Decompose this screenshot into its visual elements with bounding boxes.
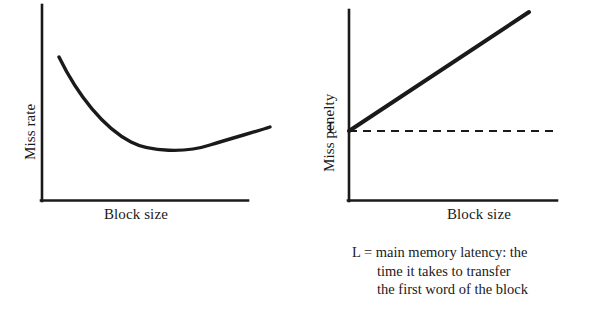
caption-line-2: time it takes to transfer [352,262,616,281]
figure-caption: L = main memory latency: the time it tak… [352,243,616,299]
latency-marker-label: L [328,120,337,137]
miss-penalty-x-axis-label: Block size [447,206,511,223]
figure-root: Miss rate Block size Miss penelty L Bloc… [0,0,616,310]
caption-line-3: the first word of the block [352,280,616,299]
chart-panel-miss-penalty: Miss penelty L Block size [300,0,616,240]
miss-rate-plot [0,0,300,240]
miss-rate-x-axis-label: Block size [104,206,168,223]
miss-rate-y-axis-label: Miss rate [22,104,39,160]
caption-line-1: L = main memory latency: the [352,243,616,262]
chart-panel-miss-rate: Miss rate Block size [0,0,300,240]
miss-penalty-line [349,12,529,131]
miss-rate-curve [59,57,270,150]
miss-penalty-plot [300,0,616,240]
